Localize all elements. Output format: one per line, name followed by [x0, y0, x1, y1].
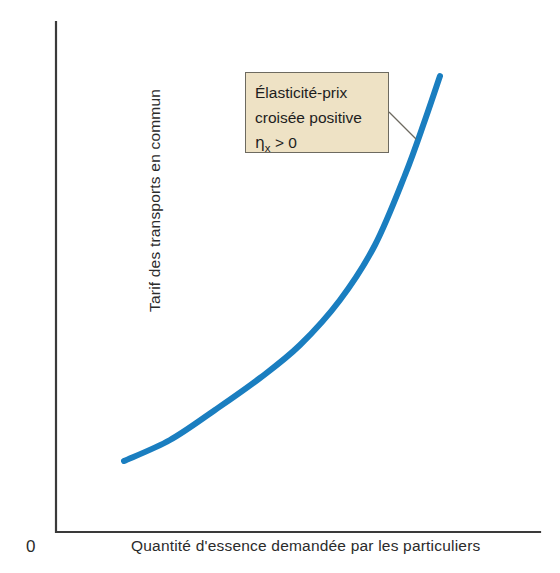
annotation-line-3: ηx > 0: [255, 130, 388, 161]
eta-subscript: x: [265, 142, 271, 154]
chart-figure: Élasticité-prix croisée positive ηx > 0 …: [0, 0, 560, 573]
annotation-line-2: croisée positive: [255, 105, 388, 130]
eta-relation: > 0: [275, 134, 297, 151]
x-axis-label: Quantité d'essence demandée par les part…: [131, 537, 480, 555]
annotation-elasticity-note: Élasticité-prix croisée positive ηx > 0: [245, 72, 389, 153]
y-axis-label: Tarif des transports en commun: [10, 282, 300, 312]
annotation-leader-line: [389, 112, 416, 139]
eta-symbol: η: [255, 134, 265, 152]
origin-label: 0: [26, 537, 36, 557]
annotation-line-1: Élasticité-prix: [255, 80, 388, 105]
